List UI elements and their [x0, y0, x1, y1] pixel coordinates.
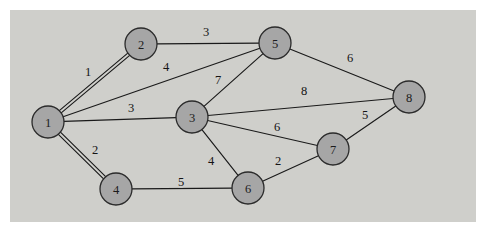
- edge-stroke: [157, 43, 259, 44]
- graph-edge-2-5: [157, 43, 259, 44]
- edge-weight-label-3-6: 4: [208, 154, 215, 168]
- edge-weight-label-1-2: 1: [85, 65, 91, 79]
- graph-node-1[interactable]: 1: [32, 106, 64, 138]
- graph-node-6[interactable]: 6: [232, 172, 264, 204]
- node-label-7: 7: [330, 143, 336, 157]
- edge-weight-label-4-6: 5: [178, 175, 184, 189]
- edge-weight-label-5-8: 6: [347, 51, 353, 65]
- edge-weight-label-7-8: 5: [362, 108, 368, 122]
- edge-weight-label-3-5: 7: [215, 73, 221, 87]
- edge-weight-label-1-5: 4: [163, 60, 170, 74]
- node-label-1: 1: [45, 116, 51, 130]
- edge-weight-label-3-7: 6: [274, 120, 280, 134]
- node-label-8: 8: [406, 91, 412, 105]
- graph-node-4[interactable]: 4: [100, 173, 132, 205]
- graph-node-5[interactable]: 5: [259, 27, 291, 59]
- edge-weight-label-3-8: 8: [301, 84, 307, 98]
- edge-weight-label-1-4: 2: [92, 143, 98, 157]
- graph-node-7[interactable]: 7: [317, 133, 349, 165]
- graph-node-8[interactable]: 8: [393, 81, 425, 113]
- graph-canvas: 11443322337788446666225555 12345678: [0, 0, 486, 233]
- node-label-3: 3: [189, 111, 195, 125]
- edge-weight-label-2-5: 3: [203, 25, 209, 39]
- node-label-5: 5: [272, 37, 278, 51]
- node-label-6: 6: [245, 182, 251, 196]
- graph-node-3[interactable]: 3: [176, 101, 208, 133]
- graph-figure: 11443322337788446666225555 12345678: [0, 0, 486, 233]
- edge-weight-label-1-3: 3: [128, 101, 134, 115]
- node-label-2: 2: [138, 38, 144, 52]
- edge-weight-label-6-7: 2: [275, 154, 281, 168]
- node-label-4: 4: [113, 183, 120, 197]
- graph-node-2[interactable]: 2: [125, 28, 157, 60]
